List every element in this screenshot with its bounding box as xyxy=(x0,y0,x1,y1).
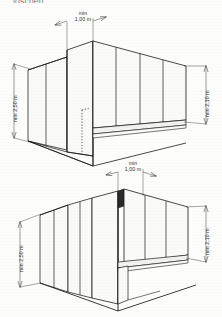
upper-solid-geometry xyxy=(28,41,186,166)
upper-front-left-face xyxy=(67,41,93,156)
lower-front-face xyxy=(92,191,118,304)
upper-min-right-height-label: min 2,10 m xyxy=(204,90,210,117)
upper-min-left-height-label: min 2,50 m xyxy=(12,95,18,122)
lower-figure-graphic xyxy=(40,189,196,311)
upper-min-width-label: min 1,00 m xyxy=(70,10,96,22)
lower-min-right-height-value: 2,10 m xyxy=(204,228,210,244)
lower-min-left-height-value: 2,50 m xyxy=(18,245,24,261)
upper-min-left-height-value: 2,50 m xyxy=(12,95,18,111)
lower-step-notch-solid xyxy=(118,189,124,208)
lower-bench-pedestal xyxy=(118,266,128,304)
lower-min-right-height-label: min 2,10 m xyxy=(204,228,210,255)
lower-floor-edge-b xyxy=(118,285,196,311)
upper-right-wall-face xyxy=(93,41,186,128)
lower-right-wall-face xyxy=(124,189,188,264)
lower-min-width-label: min 1,00 m xyxy=(120,160,146,172)
lower-min-width-value: 1,00 m xyxy=(120,166,146,172)
upper-min-width-value: 1,00 m xyxy=(70,16,96,22)
upper-min-right-height-value: 2,10 m xyxy=(204,90,210,106)
upper-min-right-height-prefix: min xyxy=(204,108,210,117)
upper-min-left-height-prefix: min xyxy=(12,113,18,122)
lower-min-left-height-label: min 2,50 m xyxy=(18,245,24,272)
upper-figure-graphic xyxy=(0,0,222,317)
drawing-page: loschen xyxy=(0,0,222,317)
upper-left-wing-face xyxy=(28,57,67,150)
lower-min-right-height-prefix: min xyxy=(204,246,210,255)
lower-min-left-height-prefix: min xyxy=(18,263,24,272)
